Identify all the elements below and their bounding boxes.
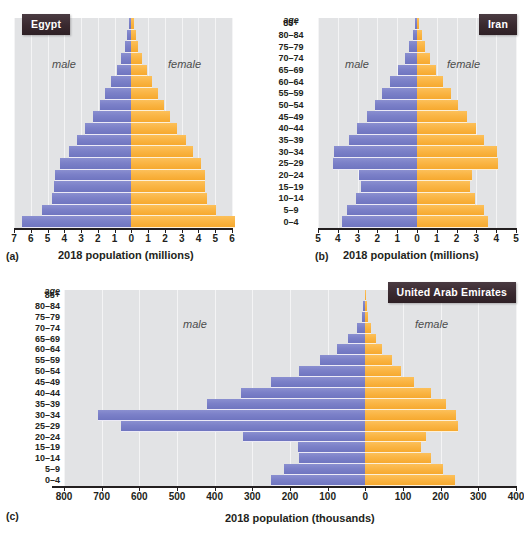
bar-male bbox=[359, 170, 417, 182]
pyramid-row bbox=[64, 366, 516, 377]
axis-tick-label: 5 bbox=[212, 233, 218, 244]
age-group-label: 40–44 bbox=[262, 123, 320, 133]
age-group-label: 15–19 bbox=[262, 182, 320, 192]
bar-female bbox=[131, 18, 133, 30]
pyramid-row bbox=[318, 100, 516, 112]
bar-female bbox=[131, 41, 138, 53]
bar-male bbox=[390, 76, 417, 88]
axis-tick-label: 1 bbox=[394, 233, 400, 244]
bar-male bbox=[299, 453, 365, 464]
axis-title-egypt: 2018 population (millions) bbox=[58, 249, 194, 261]
age-group-label: 20–24 bbox=[18, 432, 60, 442]
bar-male bbox=[121, 53, 131, 65]
pyramid-row bbox=[64, 399, 516, 410]
bar-female bbox=[365, 453, 431, 464]
axis-tick-label: 2 bbox=[375, 233, 381, 244]
country-badge-egypt: Egypt bbox=[22, 14, 70, 35]
bar-female bbox=[417, 88, 451, 100]
axis-tick-label: 300 bbox=[244, 491, 261, 502]
female-label-iran: female bbox=[447, 58, 480, 70]
pyramid-row bbox=[64, 334, 516, 345]
pyramid-row bbox=[14, 205, 232, 217]
country-badge-iran: Iran bbox=[479, 14, 517, 35]
age-group-label: 45–49 bbox=[18, 377, 60, 387]
axis-tick-label: 7 bbox=[11, 233, 17, 244]
panel-letter-b: (b) bbox=[315, 250, 328, 262]
axis-tick-label: 0 bbox=[129, 233, 135, 244]
bar-male bbox=[271, 377, 365, 388]
bar-female bbox=[417, 18, 419, 30]
axis-tick-label: 100 bbox=[319, 491, 336, 502]
x-axis-egypt: 76543210123456 bbox=[14, 228, 232, 248]
bar-female bbox=[365, 323, 371, 334]
male-label-uae: male bbox=[183, 318, 207, 330]
bars-egypt bbox=[14, 18, 232, 228]
age-group-label: 50–54 bbox=[18, 366, 60, 376]
bar-male bbox=[298, 442, 366, 453]
male-label-egypt: male bbox=[52, 58, 76, 70]
bar-male bbox=[207, 399, 365, 410]
age-group-label: 60–64 bbox=[18, 344, 60, 354]
pyramid-row bbox=[14, 170, 232, 182]
pyramid-row bbox=[318, 135, 516, 147]
age-group-label: 35–39 bbox=[18, 399, 60, 409]
axis-tick-label: 5 bbox=[315, 233, 321, 244]
bar-female bbox=[417, 53, 430, 65]
age-axis-top: age 85+80–8475–7970–7465–6960–6455–5950–… bbox=[262, 18, 320, 230]
bar-female bbox=[365, 334, 376, 345]
bar-female bbox=[417, 100, 458, 112]
pyramid-row bbox=[14, 181, 232, 193]
bar-female bbox=[417, 41, 425, 53]
pyramid-row bbox=[14, 146, 232, 158]
bar-female bbox=[365, 290, 366, 301]
bar-female bbox=[131, 158, 201, 170]
age-group-label: 60–64 bbox=[262, 77, 320, 87]
axis-tick-label: 4 bbox=[62, 233, 68, 244]
pyramid-row bbox=[64, 453, 516, 464]
bar-male bbox=[375, 100, 417, 112]
bar-male bbox=[105, 88, 131, 100]
axis-tick-label: 700 bbox=[93, 491, 110, 502]
age-group-label: 0–4 bbox=[262, 217, 320, 227]
pyramid-row bbox=[64, 410, 516, 421]
axis-tick-label: 2 bbox=[95, 233, 101, 244]
bar-male bbox=[284, 464, 365, 475]
axis-tick-label: 4 bbox=[493, 233, 499, 244]
bars-uae bbox=[64, 290, 516, 486]
pyramid-row bbox=[64, 312, 516, 323]
bar-male bbox=[347, 205, 417, 217]
pyramid-row bbox=[14, 123, 232, 135]
pyramid-row bbox=[318, 193, 516, 205]
axis-tick-label: 6 bbox=[28, 233, 34, 244]
bar-female bbox=[417, 193, 475, 205]
pyramid-row bbox=[318, 76, 516, 88]
pyramid-row bbox=[318, 216, 516, 228]
axis-title-uae: 2018 population (thousands) bbox=[225, 512, 375, 524]
age-group-label: 10–14 bbox=[18, 453, 60, 463]
bar-female bbox=[417, 181, 470, 193]
axis-tick-label: 0 bbox=[363, 491, 369, 502]
bar-male bbox=[405, 53, 417, 65]
pyramid-row bbox=[64, 442, 516, 453]
age-group-label: 25–29 bbox=[18, 421, 60, 431]
bar-female bbox=[131, 216, 234, 228]
axis-tick-label: 100 bbox=[395, 491, 412, 502]
pyramid-row bbox=[14, 135, 232, 147]
pyramid-row bbox=[14, 216, 232, 228]
bar-male bbox=[398, 65, 417, 77]
plot-area-egypt bbox=[14, 18, 232, 228]
x-axis-uae: 8007006005004003002001000100200300400 bbox=[52, 486, 516, 506]
bars-iran bbox=[318, 18, 516, 228]
axis-tick-label: 200 bbox=[282, 491, 299, 502]
plot-area-uae bbox=[64, 290, 516, 486]
age-group-label: 5–9 bbox=[262, 205, 320, 215]
x-axis-iran: 54321012345 bbox=[318, 228, 516, 248]
pyramid-row bbox=[64, 355, 516, 366]
age-group-label: 55–59 bbox=[18, 355, 60, 365]
bar-male bbox=[93, 111, 132, 123]
bar-female bbox=[365, 366, 401, 377]
pyramid-row bbox=[14, 41, 232, 53]
bar-female bbox=[417, 30, 422, 42]
age-group-label: 45–49 bbox=[262, 112, 320, 122]
